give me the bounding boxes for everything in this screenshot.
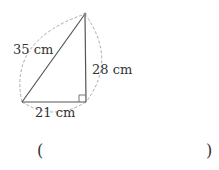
close-paren: )	[206, 143, 212, 159]
hypotenuse-line	[22, 14, 85, 102]
height-line	[85, 14, 86, 102]
triangle-diagram	[0, 0, 219, 170]
height-label: 28 cm	[92, 63, 132, 76]
right-angle-icon	[79, 95, 86, 102]
base-label: 21 cm	[35, 106, 75, 119]
hypotenuse-label: 35 cm	[13, 43, 53, 56]
open-paren: (	[37, 143, 43, 159]
apex-point	[84, 13, 87, 16]
dashed-arc-right	[85, 14, 102, 102]
